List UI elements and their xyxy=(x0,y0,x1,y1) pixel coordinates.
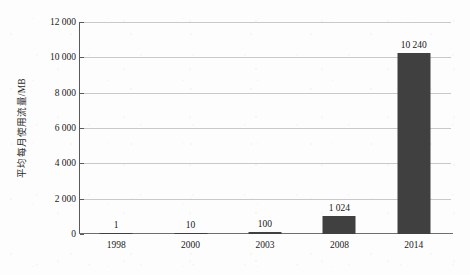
bar xyxy=(397,53,430,234)
bar xyxy=(248,232,281,234)
bar-slot: 10 xyxy=(153,22,227,234)
y-tick-label: 4 000 xyxy=(36,158,76,168)
bar xyxy=(323,216,356,234)
y-axis-title: 平均每月使用流量/MB xyxy=(14,48,30,208)
bar-slot: 10 240 xyxy=(377,22,451,234)
y-axis-tick-mark xyxy=(80,234,84,235)
bar-value-label: 1 xyxy=(79,220,153,230)
x-tick-label: 2008 xyxy=(302,240,376,250)
y-tick-label: 12 000 xyxy=(36,17,76,27)
y-tick-label: 2 000 xyxy=(36,194,76,204)
y-axis-tick-labels: 02 0004 0006 0008 00010 00012 000 xyxy=(36,16,76,240)
chart-screenshot: 平均每月使用流量/MB 02 0004 0006 0008 00010 0001… xyxy=(0,0,470,275)
x-axis-tick-labels: 19982000200320082014 xyxy=(79,240,451,256)
y-tick-label: 8 000 xyxy=(36,88,76,98)
x-tick-label: 1998 xyxy=(79,240,153,250)
bar-value-label: 10 xyxy=(153,220,227,230)
bar-value-label: 100 xyxy=(228,219,302,229)
y-tick-label: 10 000 xyxy=(36,52,76,62)
x-tick-label: 2000 xyxy=(153,240,227,250)
bar-series: 1101001 02410 240 xyxy=(79,22,451,234)
bar xyxy=(100,233,133,234)
bar-slot: 1 xyxy=(79,22,153,234)
y-tick-label: 6 000 xyxy=(36,123,76,133)
y-tick-label: 0 xyxy=(36,229,76,239)
x-tick-label: 2014 xyxy=(377,240,451,250)
bar-value-label: 1 024 xyxy=(302,203,376,213)
bar-value-label: 10 240 xyxy=(377,40,451,50)
bar-slot: 1 024 xyxy=(302,22,376,234)
bar xyxy=(174,233,207,234)
x-tick-label: 2003 xyxy=(228,240,302,250)
bar-slot: 100 xyxy=(228,22,302,234)
